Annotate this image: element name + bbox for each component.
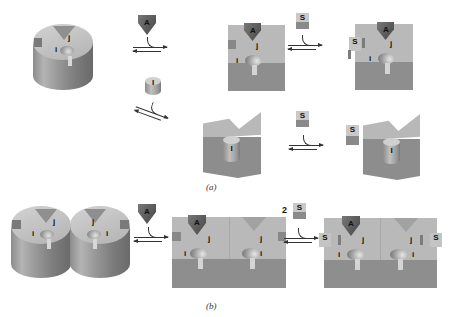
caption-a: (a) xyxy=(206,182,217,192)
site-i-label: i xyxy=(260,250,262,258)
ligand-s-bound: S xyxy=(349,37,361,51)
site-i-label: i xyxy=(369,55,371,63)
equilibrium-arrow xyxy=(133,44,167,56)
site-j-label: j xyxy=(256,42,258,50)
site-j-label: j xyxy=(362,236,364,244)
site-i-label: i xyxy=(184,250,186,258)
ligand-i: I xyxy=(145,77,161,95)
block-a-bound: A j i xyxy=(228,25,285,91)
site-j-label: j xyxy=(208,235,210,243)
site-i-label: i xyxy=(412,251,414,259)
ligand-s: S xyxy=(293,203,306,219)
equilibrium-arrow xyxy=(288,42,322,54)
site-i-label: i xyxy=(236,57,238,65)
ligand-s: S xyxy=(296,111,309,127)
site-i-label: i xyxy=(55,46,57,54)
site-j-label: j xyxy=(390,40,392,48)
site-j-label: j xyxy=(260,235,262,243)
equilibrium-arrow xyxy=(289,142,323,154)
site-j-label: j xyxy=(410,236,412,244)
site-i-label: i xyxy=(338,251,340,259)
cylinder-receptor: j i xyxy=(33,24,93,90)
dimer-cylinder-left: j i xyxy=(11,206,71,278)
site-j-label: j xyxy=(53,218,55,226)
caption-b: (b) xyxy=(206,301,217,311)
equilibrium-arrow xyxy=(284,235,318,247)
site-i-label: i xyxy=(106,230,108,238)
ligand-s-bound-left: S xyxy=(319,233,331,247)
dimer-cylinder-right: j i xyxy=(70,206,130,278)
site-j-label: j xyxy=(68,34,70,42)
ligand-s: S xyxy=(296,13,309,29)
ligand-a: A xyxy=(138,15,156,35)
equilibrium-arrow xyxy=(134,234,168,246)
dimer-block-a-2s-bound: A j i j i xyxy=(324,218,437,288)
ligand-s-released: S xyxy=(346,125,359,145)
wedge-block-i-s: I xyxy=(363,114,420,180)
site-j-label: j xyxy=(92,218,94,226)
stoichiometry-label: 2 xyxy=(282,206,287,215)
equilibrium-arrow xyxy=(133,104,169,127)
wedge-block-i-bound: I xyxy=(203,112,261,178)
block-a-s-bound: A j i xyxy=(355,24,413,90)
dimer-block-a-bound: A j i j i xyxy=(172,217,286,288)
ligand-s-bound-right: S xyxy=(430,233,442,247)
ligand-a: A xyxy=(138,204,156,224)
site-i-label: i xyxy=(32,230,34,238)
